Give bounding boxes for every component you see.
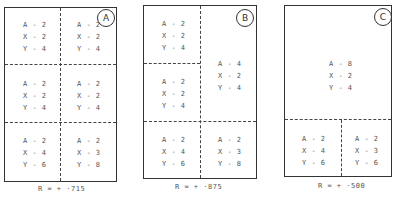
- panel-b-cell-4: A - 2 X - 4 Y - 6: [162, 134, 186, 170]
- panel-c-divider: [285, 119, 391, 120]
- panel-a-cell-3: A - 2 X - 2 Y - 4: [23, 78, 47, 114]
- y-value: Y - 6: [302, 157, 326, 169]
- panel-a-vertical-divider: [60, 8, 61, 181]
- y-value: Y - 6: [23, 159, 47, 171]
- a-value: A - 2: [23, 78, 47, 90]
- a-value: A - 2: [162, 76, 186, 88]
- x-value: X - 2: [329, 70, 353, 82]
- panel-c-cell-1: A - 8 X - 2 Y - 4: [329, 58, 353, 94]
- x-value: X - 4: [302, 145, 326, 157]
- panel-b-vertical-divider: [200, 6, 201, 178]
- x-value: X - 2: [23, 31, 47, 43]
- panel-b-cell-2: A - 2 X - 2 Y - 4: [162, 76, 186, 112]
- panel-a-divider-1: [5, 64, 116, 65]
- panel-c-cell-3: A - 2 X - 3 Y - 6: [355, 133, 379, 169]
- a-value: A - 2: [77, 135, 101, 147]
- panel-a-cell-5: A - 2 X - 4 Y - 6: [23, 135, 47, 171]
- panel-a-divider-2: [5, 122, 116, 123]
- x-value: X - 2: [77, 90, 101, 102]
- a-value: A - 2: [218, 134, 242, 146]
- panel-b-label-circle: B: [236, 9, 254, 27]
- x-value: X - 2: [218, 70, 242, 82]
- y-value: Y - 4: [77, 102, 101, 114]
- x-value: X - 2: [162, 30, 186, 42]
- panel-c-cell-2: A - 2 X - 4 Y - 6: [302, 133, 326, 169]
- y-value: Y - 4: [77, 43, 101, 55]
- a-value: A - 2: [23, 19, 47, 31]
- x-value: X - 3: [355, 145, 379, 157]
- x-value: X - 2: [162, 88, 186, 100]
- panel-a-cell-1: A - 2 X - 2 Y - 4: [23, 19, 47, 55]
- y-value: Y - 4: [218, 82, 242, 94]
- x-value: X - 3: [77, 147, 101, 159]
- x-value: X - 2: [23, 90, 47, 102]
- a-value: A - 2: [162, 18, 186, 30]
- a-value: A - 2: [77, 19, 101, 31]
- panel-a-r-value: R = + ·715: [38, 185, 85, 193]
- x-value: X - 4: [23, 147, 47, 159]
- y-value: Y - 6: [162, 158, 186, 170]
- y-value: Y - 6: [355, 157, 379, 169]
- a-value: A - 2: [23, 135, 47, 147]
- panel-a-cell-4: A - 2 X - 2 Y - 4: [77, 78, 101, 114]
- panel-b-cell-3: A - 4 X - 2 Y - 4: [218, 58, 242, 94]
- y-value: Y - 8: [77, 159, 101, 171]
- panel-b-divider-left: [144, 63, 200, 64]
- a-value: A - 2: [162, 134, 186, 146]
- y-value: Y - 4: [23, 43, 47, 55]
- y-value: Y - 4: [329, 82, 353, 94]
- a-value: A - 8: [329, 58, 353, 70]
- a-value: A - 2: [355, 133, 379, 145]
- panel-c-vertical-divider: [341, 120, 342, 176]
- y-value: Y - 4: [162, 42, 186, 54]
- panel-b-r-value: R = + ·875: [175, 183, 222, 191]
- x-value: X - 3: [218, 146, 242, 158]
- panel-a-cell-6: A - 2 X - 3 Y - 8: [77, 135, 101, 171]
- panel-b-cell-1: A - 2 X - 2 Y - 4: [162, 18, 186, 54]
- panel-b-divider-bottom: [144, 121, 256, 122]
- panel-c-label-circle: C: [374, 8, 392, 26]
- panel-a-cell-2: A - 2 X - 2 Y - 4: [77, 19, 101, 55]
- x-value: X - 4: [162, 146, 186, 158]
- y-value: Y - 4: [162, 100, 186, 112]
- a-value: A - 2: [77, 78, 101, 90]
- x-value: X - 2: [77, 31, 101, 43]
- y-value: Y - 4: [23, 102, 47, 114]
- a-value: A - 4: [218, 58, 242, 70]
- panel-c-r-value: R = + ·500: [318, 182, 365, 190]
- a-value: A - 2: [302, 133, 326, 145]
- y-value: Y - 8: [218, 158, 242, 170]
- panel-b-cell-5: A - 2 X - 3 Y - 8: [218, 134, 242, 170]
